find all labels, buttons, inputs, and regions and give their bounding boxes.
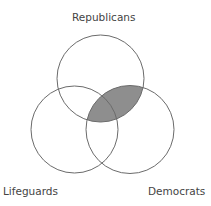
circle-lifeguards: [31, 86, 118, 173]
label-democrats: Democrats: [148, 185, 205, 197]
venn-diagram: [0, 0, 211, 206]
label-lifeguards: Lifeguards: [3, 185, 58, 197]
label-republicans: Republicans: [72, 11, 135, 23]
